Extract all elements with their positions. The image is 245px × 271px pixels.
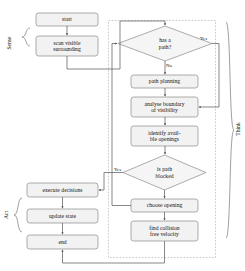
node-end-shape[interactable] xyxy=(27,235,98,249)
group-label-act: Act xyxy=(3,204,9,226)
node-start-shape[interactable] xyxy=(36,13,98,26)
node-scan-shape[interactable] xyxy=(36,36,98,56)
edge-feedback-to-has-path xyxy=(112,44,131,206)
edge-has-path-yes xyxy=(199,44,219,108)
brace-act xyxy=(14,198,22,232)
node-has-path-shape[interactable] xyxy=(118,26,212,61)
group-label-think: Think xyxy=(235,118,241,140)
flowchart-diagram: start scan visible surrounding has a pat… xyxy=(0,0,245,271)
node-update-state-shape[interactable] xyxy=(27,209,98,223)
flowchart-canvas xyxy=(0,0,245,271)
edge-label-blocked-yes: Yes xyxy=(114,167,121,172)
edge-label-has-path-yes: Yes xyxy=(200,36,207,41)
node-is-path-blocked-shape[interactable] xyxy=(123,155,206,190)
brace-think xyxy=(226,22,234,238)
brace-sense xyxy=(22,28,30,46)
edge-blocked-yes xyxy=(99,173,123,191)
edge-label-has-path-no: No xyxy=(166,63,172,68)
node-choose-opening-shape[interactable] xyxy=(131,199,198,212)
node-execute-decisions-shape[interactable] xyxy=(27,183,98,197)
group-label-sense: Sense xyxy=(6,32,12,54)
node-analyse-boundary-shape[interactable] xyxy=(131,97,198,117)
node-find-velocity-shape[interactable] xyxy=(131,221,198,241)
node-path-planning-shape[interactable] xyxy=(131,75,198,88)
node-identify-openings-shape[interactable] xyxy=(131,126,198,146)
